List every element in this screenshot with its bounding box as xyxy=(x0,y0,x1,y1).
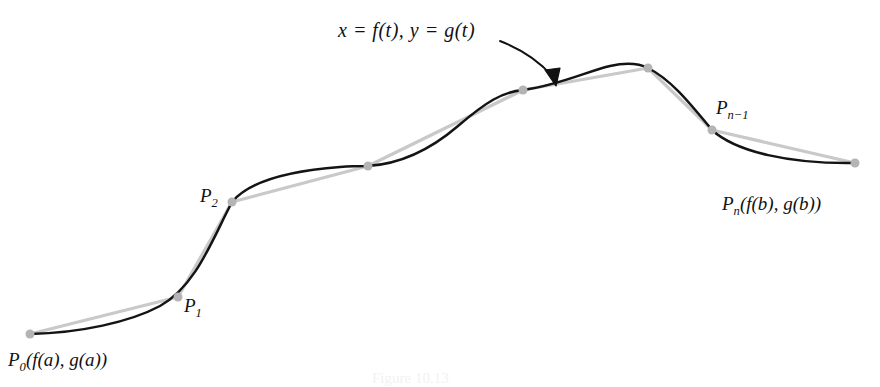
node-p3 xyxy=(364,162,373,171)
node-pn-1 xyxy=(708,126,717,135)
node-pn xyxy=(851,159,860,168)
point-label-p2-base: P xyxy=(200,185,212,206)
parametric-equations-label: x = f(t), y = g(t) xyxy=(338,20,475,40)
point-label-p0: P0(f(a), g(a)) xyxy=(8,350,107,373)
point-label-pn-args: (f(b), g(b)) xyxy=(740,193,821,214)
point-label-pn-minus-1: Pn−1 xyxy=(716,98,749,121)
node-p5 xyxy=(644,64,653,73)
node-p2 xyxy=(228,198,237,207)
point-label-pn-minus-1-subscript: n−1 xyxy=(728,108,749,122)
node-p4 xyxy=(519,86,528,95)
node-p1 xyxy=(174,293,183,302)
point-label-p1: P1 xyxy=(184,296,202,319)
point-label-p2: P2 xyxy=(200,186,218,209)
figure-caption: Figure 10.13 xyxy=(372,370,449,387)
point-label-p1-subscript: 1 xyxy=(196,306,202,320)
point-label-pn-base: P xyxy=(722,193,734,214)
point-label-p0-args: (f(a), g(a)) xyxy=(26,349,107,370)
node-p0 xyxy=(26,330,35,339)
point-label-p2-subscript: 2 xyxy=(212,196,218,210)
point-label-pn-minus-1-base: P xyxy=(716,97,728,118)
point-label-p1-base: P xyxy=(184,295,196,316)
point-label-p0-base: P xyxy=(8,349,20,370)
point-label-pn: Pn(f(b), g(b)) xyxy=(722,194,821,217)
